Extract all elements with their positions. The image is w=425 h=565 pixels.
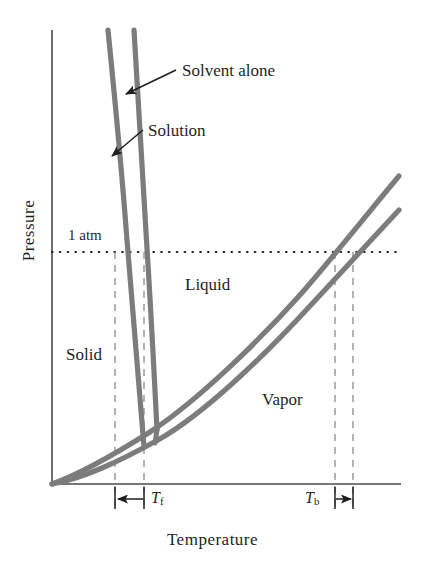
solvent-alone-arrow [126,70,176,94]
tf-subscript: f [160,495,164,507]
tf-symbol: T [151,489,160,506]
boiling-point-elevation-marker [335,487,353,509]
freezing-point-depression-marker [115,487,144,509]
boiling-point-symbol: Tb [305,490,319,507]
pressure-axis-label: Pressure [20,183,37,279]
region-label-vapor: Vapor [262,391,303,408]
one-atm-label: 1 atm [68,228,102,243]
region-label-liquid: Liquid [185,276,230,293]
curve-label-solvent-alone: Solvent alone [182,62,275,79]
phase-diagram-figure: Pressure Temperature 1 atm Solid Liquid … [0,0,425,565]
temperature-axis-label: Temperature [0,531,425,548]
tb-subscript: b [314,495,320,507]
vaporization-curves [52,176,399,484]
curve-label-solution: Solution [148,122,206,139]
region-label-solid: Solid [66,346,102,363]
freezing-point-symbol: Tf [151,490,164,507]
tb-symbol: T [305,489,314,506]
